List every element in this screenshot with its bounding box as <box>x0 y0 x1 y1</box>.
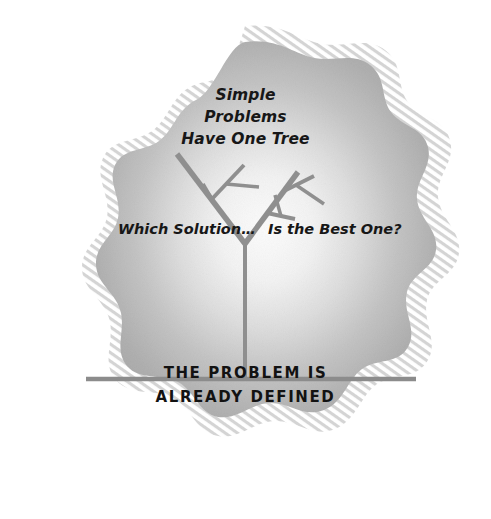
footer-caption: THE PROBLEM IS ALREADY DEFINED <box>0 366 491 405</box>
footer-line-1: THE PROBLEM IS <box>0 366 491 381</box>
label-is-the-best-one: Is the Best One? <box>268 222 402 237</box>
label-which-solution: Which Solution… <box>118 222 256 237</box>
footer-line-2: ALREADY DEFINED <box>0 390 491 405</box>
diagram-svg <box>0 0 491 519</box>
headline-line-3: Have One Tree <box>0 132 491 148</box>
headline: Simple Problems Have One Tree <box>0 88 491 154</box>
headline-line-1: Simple <box>0 88 491 104</box>
figure-canvas: Simple Problems Have One Tree Which Solu… <box>0 0 491 519</box>
headline-line-2: Problems <box>0 110 491 126</box>
